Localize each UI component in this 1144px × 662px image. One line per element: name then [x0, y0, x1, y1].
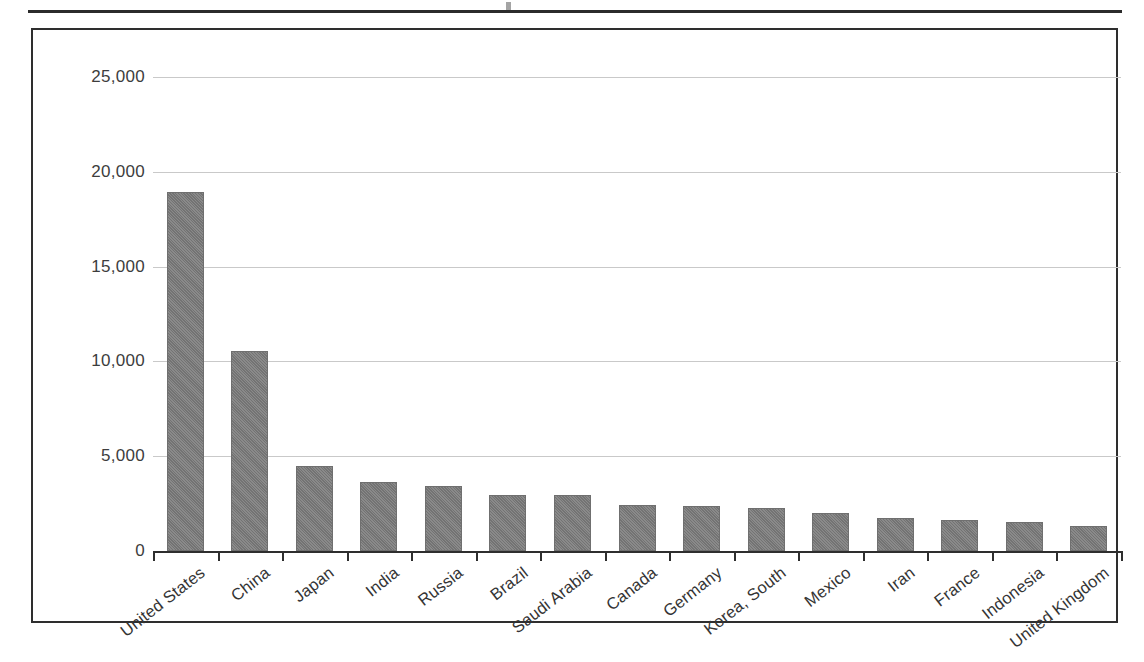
- gridline: [153, 77, 1121, 78]
- x-tick-label: United States: [117, 563, 209, 641]
- bar[interactable]: [554, 495, 591, 551]
- x-tick-label: Japan: [290, 563, 338, 606]
- y-tick-label: 15,000: [67, 257, 145, 277]
- x-tick: [1121, 551, 1123, 561]
- x-tick: [540, 551, 542, 561]
- y-axis: 05,00010,00015,00020,00025,000: [53, 77, 145, 551]
- x-tick: [282, 551, 284, 561]
- chart-frame: 05,00010,00015,00020,00025,000 United St…: [31, 28, 1118, 623]
- x-tick: [798, 551, 800, 561]
- x-tick-label: Brazil: [486, 563, 531, 604]
- x-axis: United StatesChinaJapanIndiaRussiaBrazil…: [153, 563, 1121, 649]
- x-tick-label: Canada: [603, 563, 661, 614]
- y-tick-label: 0: [67, 541, 145, 561]
- plot-area: [153, 77, 1121, 551]
- x-tick-label: France: [930, 563, 983, 610]
- y-tick-label: 20,000: [67, 162, 145, 182]
- x-tick: [1056, 551, 1058, 561]
- x-tick: [992, 551, 994, 561]
- y-tick-label: 25,000: [67, 67, 145, 87]
- x-tick: [218, 551, 220, 561]
- x-tick: [605, 551, 607, 561]
- gridline: [153, 267, 1121, 268]
- x-tick: [347, 551, 349, 561]
- x-tick: [863, 551, 865, 561]
- x-tick-label: Iran: [884, 563, 919, 596]
- x-tick: [669, 551, 671, 561]
- bar[interactable]: [683, 506, 720, 552]
- y-tick-label: 5,000: [67, 446, 145, 466]
- x-tick: [476, 551, 478, 561]
- x-tick-label: China: [227, 563, 273, 605]
- bar[interactable]: [167, 192, 204, 551]
- x-tick: [411, 551, 413, 561]
- x-tick-label: India: [362, 563, 403, 601]
- bar[interactable]: [941, 520, 978, 551]
- bar[interactable]: [812, 513, 849, 551]
- x-tick: [927, 551, 929, 561]
- gridline: [153, 456, 1121, 457]
- gridline: [153, 361, 1121, 362]
- page-top-artifact: [506, 2, 511, 10]
- x-tick: [734, 551, 736, 561]
- x-tick-label: Russia: [415, 563, 467, 610]
- bar[interactable]: [231, 351, 268, 551]
- bar[interactable]: [1006, 522, 1043, 551]
- x-axis-line: [153, 551, 1121, 553]
- bar[interactable]: [619, 505, 656, 551]
- page-top-rule: [28, 10, 1122, 13]
- bar[interactable]: [1070, 526, 1107, 551]
- bar[interactable]: [748, 508, 785, 551]
- bar[interactable]: [360, 482, 397, 551]
- gridline: [153, 172, 1121, 173]
- bar[interactable]: [296, 466, 333, 551]
- y-tick-label: 10,000: [67, 351, 145, 371]
- bar[interactable]: [425, 486, 462, 551]
- bar[interactable]: [877, 518, 914, 551]
- bar[interactable]: [489, 495, 526, 552]
- x-tick: [153, 551, 155, 561]
- x-tick-label: Mexico: [800, 563, 854, 611]
